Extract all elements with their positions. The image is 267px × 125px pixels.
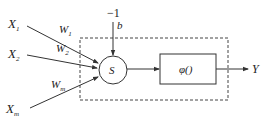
summation-label: S	[109, 64, 115, 76]
neuron-diagram: X1 X2 Xm W1 W2 Wm −1 b S φ() Y	[0, 0, 267, 125]
weight-label-2: W2	[56, 42, 69, 57]
input-label-m: Xm	[5, 101, 19, 118]
input-label-1: X1	[7, 16, 19, 33]
weight-label-m: Wm	[51, 78, 65, 93]
activation-label: φ()	[179, 63, 193, 76]
bias-input-label: −1	[107, 6, 120, 20]
bias-label: b	[117, 19, 123, 31]
output-label: Y	[252, 62, 260, 76]
weight-label-1: W1	[59, 23, 72, 38]
input-label-2: X2	[7, 46, 20, 63]
